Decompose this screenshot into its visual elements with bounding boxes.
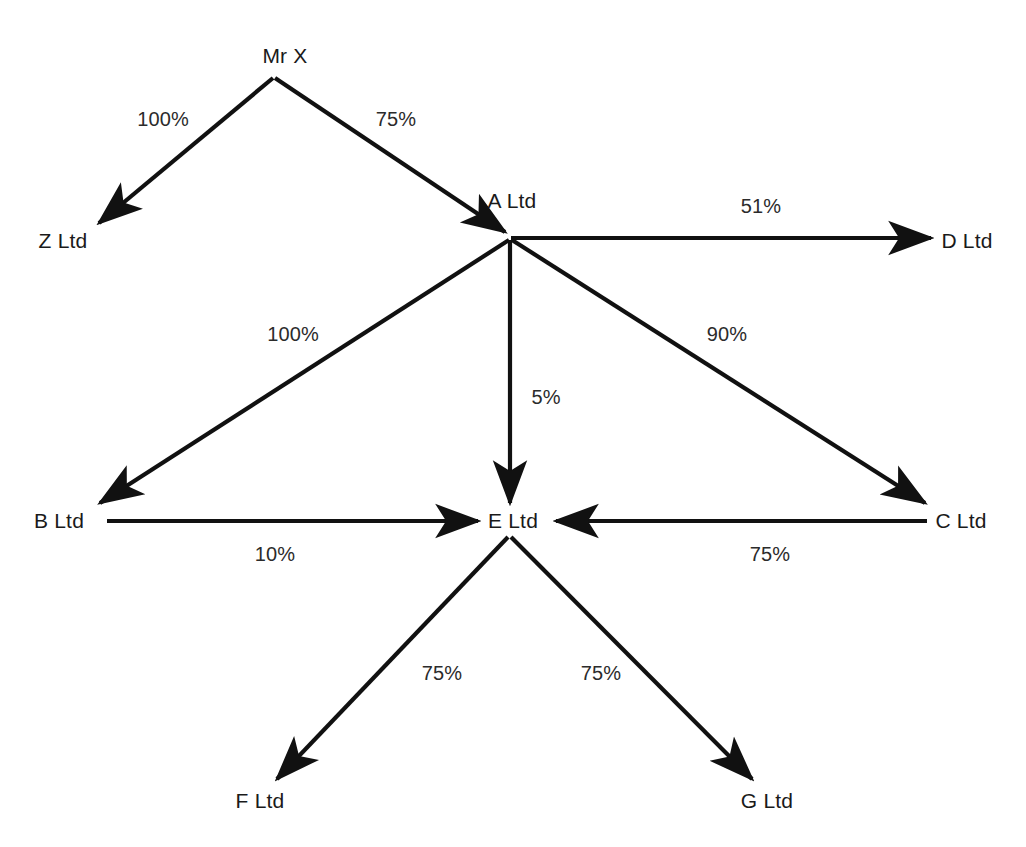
- node-f-ltd[interactable]: F Ltd: [236, 790, 285, 811]
- edge-mrx-to-z: [99, 78, 273, 223]
- edge-e-to-f: [277, 537, 508, 779]
- edge-label-e-to-g: 75%: [581, 663, 621, 683]
- edge-label-mrx-to-a: 75%: [376, 109, 416, 129]
- edge-a-to-c: [512, 240, 925, 503]
- node-g-ltd[interactable]: G Ltd: [741, 790, 793, 811]
- node-mr-x[interactable]: Mr X: [262, 45, 307, 66]
- edge-label-a-to-d: 51%: [741, 196, 781, 216]
- edge-a-to-b: [100, 240, 509, 503]
- node-z-ltd[interactable]: Z Ltd: [39, 230, 88, 251]
- edge-label-a-to-b: 100%: [267, 324, 319, 344]
- edge-label-c-to-e: 75%: [750, 544, 790, 564]
- ownership-diagram-canvas: Mr X Z Ltd A Ltd D Ltd B Ltd E Ltd C Ltd…: [0, 0, 1026, 847]
- edge-label-b-to-e: 10%: [255, 544, 295, 564]
- node-a-ltd[interactable]: A Ltd: [488, 190, 537, 211]
- node-c-ltd[interactable]: C Ltd: [935, 510, 986, 531]
- node-e-ltd[interactable]: E Ltd: [488, 510, 538, 531]
- edge-e-to-g: [511, 537, 752, 779]
- node-b-ltd[interactable]: B Ltd: [34, 510, 84, 531]
- node-d-ltd[interactable]: D Ltd: [941, 230, 992, 251]
- edge-label-a-to-e: 5%: [531, 387, 560, 407]
- edge-label-a-to-c: 90%: [707, 324, 747, 344]
- edge-label-mrx-to-z: 100%: [137, 109, 189, 129]
- edge-mrx-to-a: [275, 78, 505, 232]
- edge-label-e-to-f: 75%: [422, 663, 462, 683]
